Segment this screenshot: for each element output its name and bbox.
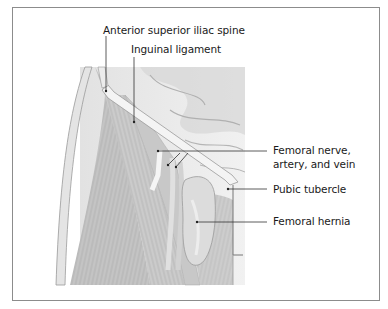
label-anterior-superior-iliac-spine: Anterior superior iliac spine: [103, 24, 245, 37]
label-artery-and-vein: artery, and vein: [273, 158, 355, 171]
label-femoral-nerve: Femoral nerve,: [273, 144, 351, 157]
label-inguinal-ligament: Inguinal ligament: [131, 43, 221, 56]
label-pubic-tubercle: Pubic tubercle: [273, 183, 346, 196]
label-femoral-hernia: Femoral hernia: [273, 215, 350, 228]
